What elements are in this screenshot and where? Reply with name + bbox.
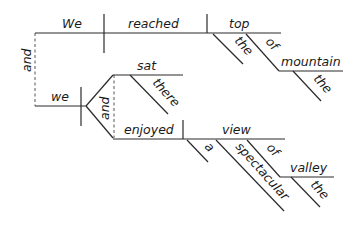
clause1-prep-object: mountain (281, 54, 341, 69)
clause1-article: the (232, 33, 257, 59)
verb1: sat (137, 58, 157, 73)
clause2-preposition: of (264, 140, 284, 160)
clause2-subject: we (51, 89, 69, 104)
main-conjunction: and (19, 33, 35, 106)
main-conjunction-label: and (19, 48, 34, 72)
clause-2: we and sat there enjoyed view a spectacu… (35, 58, 334, 211)
verb2: enjoyed (124, 122, 174, 137)
clause2-object: view (222, 122, 252, 137)
clause1-prep-article: the (311, 71, 336, 97)
verb-conjunction-label: and (97, 96, 112, 120)
clause2-adjective: spectacular (233, 139, 293, 204)
clause1-verb: reached (128, 16, 179, 31)
clause1-object: top (229, 16, 250, 31)
clause2-prep-object: valley (290, 160, 328, 175)
verb1-adverb: there (150, 75, 184, 110)
clause1-preposition: of (263, 34, 283, 54)
sentence-diagram: We reached top the of mountain the and w… (0, 0, 358, 227)
clause1-subject: We (62, 16, 82, 31)
clause2-article: a (202, 139, 218, 155)
